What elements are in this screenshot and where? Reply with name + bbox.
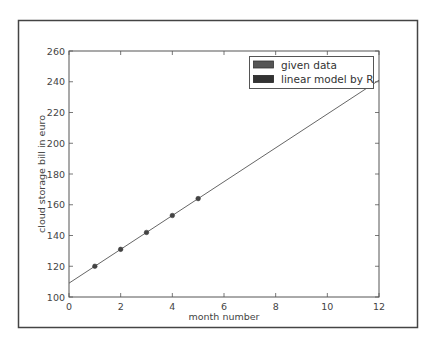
y-tick-label: 200	[47, 138, 65, 149]
legend-label-given-data: given data	[281, 59, 337, 71]
y-tick-label: 260	[47, 46, 65, 57]
y-tick-label: 160	[47, 199, 65, 210]
x-tick-label: 10	[321, 301, 333, 312]
x-tick-label: 4	[169, 301, 175, 312]
legend-patch-linear-model	[254, 76, 274, 83]
y-tick-label: 120	[47, 261, 65, 272]
data-point	[118, 247, 123, 252]
data-point	[144, 230, 149, 235]
y-tick-label: 180	[47, 169, 65, 180]
x-tick-label: 0	[66, 301, 72, 312]
figure-container: 024681012 100120140160180200220240260 mo…	[0, 0, 434, 346]
data-point	[170, 213, 175, 218]
data-point	[93, 264, 98, 269]
y-tick-label: 220	[47, 107, 65, 118]
y-tick-label: 240	[47, 76, 65, 87]
x-tick-label: 12	[373, 301, 385, 312]
data-point	[196, 196, 201, 201]
x-axis-label: month number	[189, 311, 260, 322]
y-axis-label: cloud storage bill in euro	[36, 115, 47, 233]
chart-svg: 024681012 100120140160180200220240260 mo…	[0, 0, 434, 346]
y-tick-labels: 100120140160180200220240260	[47, 46, 65, 303]
legend: given data linear model by R	[250, 57, 374, 89]
y-tick-label: 140	[47, 230, 65, 241]
x-tick-label: 8	[273, 301, 279, 312]
y-tick-label: 100	[47, 292, 65, 303]
x-tick-label: 2	[118, 301, 124, 312]
legend-patch-given-data	[254, 61, 274, 68]
legend-label-linear-model: linear model by R	[281, 73, 374, 85]
